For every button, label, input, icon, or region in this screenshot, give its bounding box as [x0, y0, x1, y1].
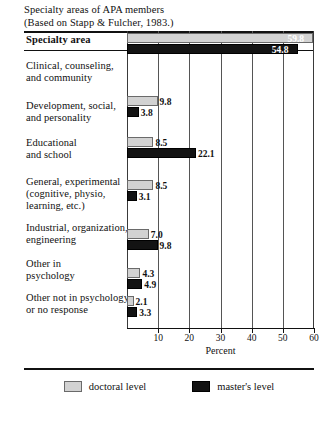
- category-label-2-line-1: and school: [26, 149, 126, 161]
- category-label-6-line-0: Other not in psychology: [26, 292, 126, 304]
- chart-figure: Specialty areas of APA members (Based on…: [0, 0, 328, 429]
- legend-swatch-doctoral-icon: [64, 381, 82, 392]
- x-tick-label-10: 10: [153, 333, 163, 343]
- bar-value-label-0-mas: 54.8: [272, 45, 289, 55]
- category-label-4-line-0: Industrial, organization,: [26, 222, 126, 234]
- category-label-5-line-1: psychology: [26, 270, 126, 282]
- bar-doctoral-level-4: [127, 229, 149, 239]
- legend-label-doctoral: doctoral level: [89, 381, 146, 392]
- column-header-specialty-area: Specialty area: [26, 34, 91, 45]
- bar-value-label-2-mas: 22.1: [198, 149, 215, 159]
- bar-value-label-3-doc: 8.5: [155, 181, 167, 191]
- category-label-2-line-0: Educational: [26, 137, 126, 149]
- category-label-1: Development, social,and personality: [26, 100, 126, 124]
- category-label-5-line-0: Other in: [26, 258, 126, 270]
- category-label-4-line-1: engineering: [26, 234, 126, 246]
- x-tick-label-20: 20: [185, 333, 195, 343]
- category-label-0-line-0: Clinical, counseling,: [26, 60, 126, 72]
- bar-master-s-level-6: [127, 307, 137, 317]
- bar-doctoral-level-5: [127, 268, 140, 278]
- bar-value-label-4-mas: 9.8: [160, 241, 172, 251]
- bar-doctoral-level-1: [127, 96, 158, 106]
- gridline-30: [221, 31, 222, 328]
- bar-value-label-5-doc: 4.3: [142, 269, 154, 279]
- bar-master-s-level-5: [127, 279, 142, 289]
- x-axis-label: Percent: [127, 345, 314, 356]
- bar-value-label-4-doc: 7.0: [151, 230, 163, 240]
- figure-title-line1: Specialty areas of APA members: [24, 4, 314, 17]
- category-label-3-line-2: learning, etc.): [26, 200, 126, 212]
- category-label-0-line-1: and community: [26, 72, 126, 84]
- gridline-50: [283, 31, 284, 328]
- legend: doctoral level master's level: [24, 381, 314, 392]
- x-tick-label-30: 30: [216, 333, 226, 343]
- category-label-6-line-1: or no response: [26, 304, 126, 316]
- category-label-1-line-0: Development, social,: [26, 100, 126, 112]
- category-label-5: Other inpsychology: [26, 258, 126, 282]
- category-label-6: Other not in psychologyor no response: [26, 292, 126, 316]
- category-label-0: Clinical, counseling,and community: [26, 60, 126, 84]
- bar-value-label-2-doc: 8.5: [155, 138, 167, 148]
- gridline-10: [158, 31, 159, 328]
- category-label-4: Industrial, organization,engineering: [26, 222, 126, 246]
- bar-value-label-5-mas: 4.9: [144, 280, 156, 290]
- bar-doctoral-level-6: [127, 296, 134, 306]
- bar-value-label-6-mas: 3.3: [139, 308, 151, 318]
- bar-doctoral-level-0: [127, 33, 313, 43]
- bar-value-label-0-doc: 59.8: [287, 34, 304, 44]
- bar-master-s-level-2: [127, 148, 196, 158]
- bar-master-s-level-1: [127, 107, 139, 117]
- category-label-1-line-1: and personality: [26, 112, 126, 124]
- x-tick-label-60: 60: [309, 333, 319, 343]
- gridline-20: [189, 31, 190, 328]
- footer-rule: [24, 368, 314, 370]
- figure-title: Specialty areas of APA members (Based on…: [24, 4, 314, 29]
- bar-doctoral-level-2: [127, 137, 153, 147]
- legend-swatch-masters-icon: [192, 381, 210, 392]
- gridline-40: [252, 31, 253, 328]
- figure-subtitle: (Based on Stapp & Fulcher, 1983.): [24, 17, 314, 30]
- bar-value-label-1-doc: 9.8: [160, 97, 172, 107]
- x-tick-label-50: 50: [278, 333, 288, 343]
- category-label-3-line-0: General, experimental: [26, 176, 126, 188]
- legend-label-masters: master's level: [217, 381, 274, 392]
- category-label-2: Educationaland school: [26, 137, 126, 161]
- bar-master-s-level-4: [127, 240, 158, 250]
- bar-master-s-level-3: [127, 191, 137, 201]
- bar-value-label-6-doc: 2.1: [136, 297, 148, 307]
- category-label-3: General, experimental(cognitive, physio,…: [26, 176, 126, 213]
- x-tick-label-40: 40: [247, 333, 257, 343]
- bar-doctoral-level-3: [127, 180, 153, 190]
- bar-value-label-3-mas: 3.1: [139, 192, 151, 202]
- category-label-3-line-1: (cognitive, physio,: [26, 188, 126, 200]
- bar-value-label-1-mas: 3.8: [141, 108, 153, 118]
- legend-item-doctoral: doctoral level: [64, 381, 146, 392]
- legend-item-masters: master's level: [192, 381, 274, 392]
